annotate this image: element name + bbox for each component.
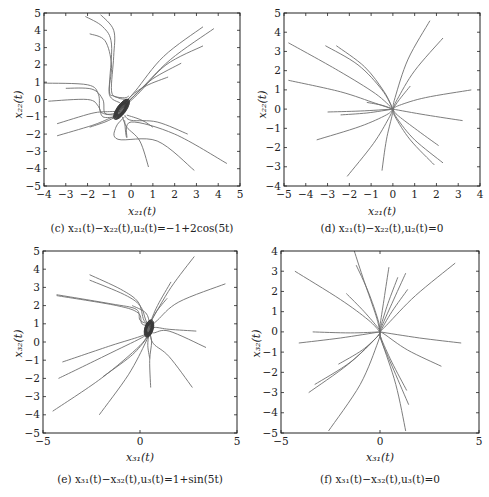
trajectory-line <box>393 21 430 109</box>
y-tick-label: −5 <box>263 427 278 439</box>
trajectory-line <box>122 117 148 167</box>
x-tick-label: 4 <box>477 188 484 200</box>
y-axis-label-f: x₃₂(t) <box>250 318 263 358</box>
y-tick-label: −2 <box>263 366 278 378</box>
y-axis-label-d: x₂₂(t) <box>256 79 269 119</box>
y-tick-label: 4 <box>274 26 281 38</box>
y-tick-label: 2 <box>274 64 281 76</box>
x-tick-label: 5 <box>234 435 241 447</box>
y-tick-label: −1 <box>263 346 278 358</box>
y-tick-label: 0 <box>33 336 40 348</box>
trajectory-line <box>380 332 409 405</box>
y-tick-label: 4 <box>34 24 41 36</box>
y-tick-label: 4 <box>33 263 40 275</box>
y-tick-label: 2 <box>34 58 41 70</box>
y-tick-label: 4 <box>271 245 278 257</box>
y-tick-label: 3 <box>33 281 40 293</box>
x-tick-label: 4 <box>215 188 222 200</box>
trajectory-line <box>152 257 195 321</box>
y-tick-label: 1 <box>33 317 40 329</box>
y-tick-label: 1 <box>34 76 41 88</box>
trajectory-line <box>356 265 380 332</box>
trajectory-line <box>122 29 213 107</box>
trajectory-line <box>380 332 461 343</box>
trajectory-line <box>295 271 380 332</box>
trajectory-line <box>57 296 150 326</box>
x-tick-label: −1 <box>363 188 378 200</box>
trajectory-line <box>101 15 127 100</box>
axes-frame <box>43 251 237 433</box>
y-tick-label: 1 <box>271 305 278 317</box>
chart-f: −505−5−4−3−2−101234 <box>263 245 483 448</box>
chart-d: −5−4−3−2−101234−4−3−2−1012345 <box>266 7 484 201</box>
chart-c: −4−3−2−1012345−5−4−3−2−1012345 <box>26 7 244 201</box>
trajectory-line <box>299 332 380 343</box>
trajectory-line <box>354 251 380 332</box>
trajectory-line <box>393 109 434 165</box>
trajectory-line <box>148 335 150 359</box>
x-axis-label-e: x₃₁(t) <box>100 451 180 464</box>
trajectory-line <box>57 115 118 136</box>
x-tick-label: 1 <box>150 188 157 200</box>
trajectories-c <box>44 15 227 171</box>
y-tick-label: 0 <box>271 325 278 337</box>
trajectories-e <box>53 257 226 415</box>
y-tick-label: 5 <box>274 7 281 19</box>
trajectory-line <box>57 295 148 324</box>
x-tick-label: 0 <box>137 435 144 447</box>
y-tick-label: 2 <box>271 285 278 297</box>
y-tick-label: 0 <box>34 93 41 105</box>
y-tick-label: −2 <box>26 128 41 140</box>
caption-f: (f) x₃₁(t)−x₃₂(t),u₃(t)=0 <box>258 473 489 485</box>
x-tick-label: 1 <box>411 188 418 200</box>
x-tick-label: −4 <box>298 188 314 200</box>
x-axis-label-c: x₂₁(t) <box>102 205 182 218</box>
x-tick-label: −3 <box>320 188 335 200</box>
y-tick-label: −4 <box>25 408 41 420</box>
x-axis-label-d: x₂₁(t) <box>342 205 422 218</box>
trajectory-line <box>382 109 393 171</box>
trajectory-line <box>53 333 148 411</box>
caption-e: (e) x₃₁(t)−x₃₂(t),u₃(t)=1+sin(5t) <box>18 473 262 485</box>
trajectory-line <box>150 327 197 331</box>
y-tick-label: −3 <box>263 386 278 398</box>
y-tick-label: −5 <box>25 427 40 439</box>
y-tick-label: −1 <box>26 110 41 122</box>
y-tick-label: −3 <box>266 160 281 172</box>
y-axis-label-c: x₂₂(t) <box>12 79 25 119</box>
trajectory-line <box>338 332 380 364</box>
y-tick-label: 5 <box>33 245 40 257</box>
x-tick-label: −3 <box>58 188 73 200</box>
trajectory-line <box>313 332 380 333</box>
trajectory-line <box>393 109 463 121</box>
x-tick-label: 3 <box>193 188 200 200</box>
trajectory-line <box>114 117 194 171</box>
x-tick-label: −1 <box>102 188 117 200</box>
trajectory-line <box>103 333 150 377</box>
trajectories-d <box>288 21 471 177</box>
trajectory-line <box>329 332 381 431</box>
trajectory-line <box>150 330 206 347</box>
x-tick-label: 2 <box>171 188 178 200</box>
x-tick-label: 5 <box>237 188 244 200</box>
y-tick-label: −5 <box>26 180 41 192</box>
trajectory-line <box>66 88 116 114</box>
caption-d: (d) x₂₁(t)−x₂₂(t),u₂(t)=0 <box>260 222 489 234</box>
y-tick-label: 2 <box>33 299 40 311</box>
x-tick-label: 3 <box>455 188 462 200</box>
x-tick-label: 2 <box>433 188 440 200</box>
y-tick-label: −4 <box>263 406 279 418</box>
y-tick-label: 3 <box>34 41 41 53</box>
x-tick-label: 0 <box>390 188 397 200</box>
y-tick-label: −2 <box>266 141 281 153</box>
trajectory-line <box>380 267 389 332</box>
x-tick-label: 0 <box>128 188 135 200</box>
trajectory-line <box>150 333 152 388</box>
trajectories-f <box>295 251 461 431</box>
x-axis-label-f: x₃₁(t) <box>340 451 420 464</box>
y-tick-label: −4 <box>266 180 282 192</box>
x-tick-label: 5 <box>476 435 483 447</box>
y-tick-label: 1 <box>274 83 281 95</box>
trajectory-line <box>341 109 393 115</box>
y-tick-label: −3 <box>26 145 41 157</box>
